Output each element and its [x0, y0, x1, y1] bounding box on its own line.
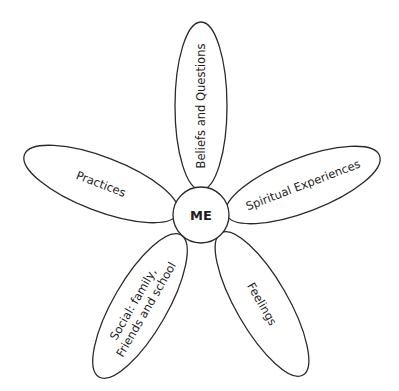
petal-beliefs-label: Beliefs and Questions [194, 44, 208, 169]
petal-beliefs: Beliefs and Questions [175, 22, 227, 190]
petal-spiritual: Spiritual Experiences [217, 130, 389, 239]
center-hub: ME [173, 187, 229, 243]
petal-social: Social: family, Friends and school [76, 221, 205, 390]
flower-diagram: Beliefs and Questions Practices Spiritua… [0, 0, 399, 391]
center-label: ME [190, 208, 212, 223]
petal-feelings: Feelings [198, 220, 325, 388]
petal-practices: Practices [15, 129, 187, 238]
